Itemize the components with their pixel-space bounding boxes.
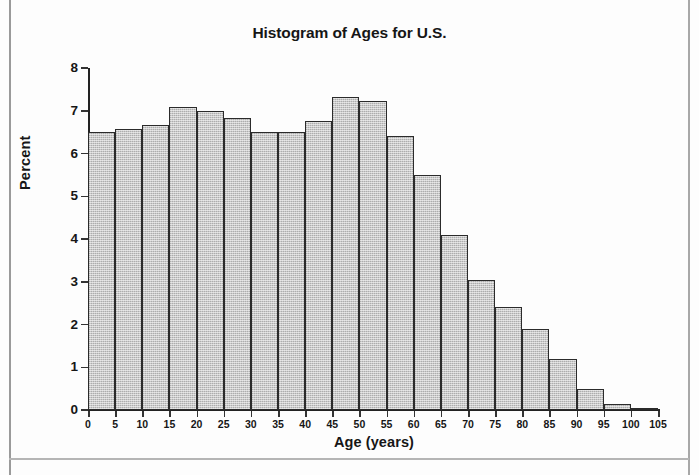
x-tick-label: 105 bbox=[649, 419, 667, 430]
x-tick-label: 90 bbox=[571, 419, 583, 430]
y-tick-mark bbox=[81, 409, 88, 411]
histogram-bar bbox=[332, 97, 359, 410]
chart-title: Histogram of Ages for U.S. bbox=[0, 24, 699, 42]
y-tick-mark bbox=[81, 196, 88, 198]
x-tick-label: 40 bbox=[299, 419, 311, 430]
x-tick-mark bbox=[549, 411, 551, 417]
x-tick-mark bbox=[115, 411, 117, 417]
page-rule-right bbox=[688, 0, 690, 475]
x-tick-mark bbox=[577, 411, 579, 417]
histogram-bar bbox=[115, 129, 142, 410]
x-tick-mark bbox=[305, 411, 307, 417]
x-tick-mark bbox=[604, 411, 606, 417]
x-tick-mark bbox=[441, 411, 443, 417]
x-tick-mark bbox=[359, 411, 361, 417]
x-tick-label: 45 bbox=[326, 419, 338, 430]
x-tick-label: 20 bbox=[191, 419, 203, 430]
y-tick-mark bbox=[81, 281, 88, 283]
y-tick-label: 5 bbox=[70, 190, 78, 204]
histogram-bar bbox=[251, 132, 278, 410]
y-tick-label: 0 bbox=[70, 403, 78, 417]
x-tick-mark bbox=[522, 411, 524, 417]
histogram-bar bbox=[142, 125, 169, 410]
x-tick-label: 85 bbox=[544, 419, 556, 430]
y-tick-mark bbox=[81, 110, 88, 112]
x-tick-mark bbox=[142, 411, 144, 417]
x-tick-mark bbox=[88, 411, 90, 417]
y-tick-label: 1 bbox=[70, 361, 78, 375]
x-tick-label: 100 bbox=[622, 419, 640, 430]
x-tick-mark bbox=[658, 411, 660, 417]
x-tick-label: 0 bbox=[85, 419, 91, 430]
y-tick-label: 7 bbox=[70, 104, 78, 118]
x-tick-label: 15 bbox=[164, 419, 176, 430]
y-tick-mark bbox=[81, 238, 88, 240]
x-tick-label: 35 bbox=[272, 419, 284, 430]
histogram-bar bbox=[549, 359, 576, 410]
histogram-bar bbox=[88, 132, 115, 410]
histogram-bar bbox=[197, 111, 224, 410]
x-tick-mark bbox=[414, 411, 416, 417]
histogram-bar bbox=[387, 136, 414, 410]
x-tick-mark bbox=[251, 411, 253, 417]
x-tick-mark bbox=[169, 411, 171, 417]
x-tick-label: 70 bbox=[462, 419, 474, 430]
page-rule-bottom bbox=[9, 458, 689, 460]
x-tick-label: 10 bbox=[136, 419, 148, 430]
scanned-page: Histogram of Ages for U.S. Percent Age (… bbox=[0, 0, 699, 475]
histogram-bar bbox=[522, 329, 549, 410]
y-tick-label: 8 bbox=[70, 61, 78, 75]
x-tick-label: 30 bbox=[245, 419, 257, 430]
x-tick-label: 50 bbox=[354, 419, 366, 430]
histogram-bar bbox=[169, 107, 196, 410]
histogram-bar bbox=[278, 132, 305, 410]
histogram-bar bbox=[305, 121, 332, 410]
y-tick-label: 4 bbox=[70, 232, 78, 246]
histogram-bar bbox=[359, 101, 386, 410]
x-tick-label: 80 bbox=[516, 419, 528, 430]
y-tick-mark bbox=[81, 367, 88, 369]
x-tick-label: 55 bbox=[381, 419, 393, 430]
x-tick-mark bbox=[224, 411, 226, 417]
x-tick-label: 95 bbox=[598, 419, 610, 430]
y-tick-label: 6 bbox=[70, 147, 78, 161]
y-tick-mark bbox=[81, 153, 88, 155]
x-tick-label: 25 bbox=[218, 419, 230, 430]
x-tick-label: 65 bbox=[435, 419, 447, 430]
x-tick-mark bbox=[387, 411, 389, 417]
page-rule-left bbox=[9, 0, 11, 475]
x-tick-mark bbox=[197, 411, 199, 417]
x-tick-mark bbox=[631, 411, 633, 417]
x-tick-label: 5 bbox=[112, 419, 118, 430]
x-tick-mark bbox=[495, 411, 497, 417]
x-tick-mark bbox=[278, 411, 280, 417]
y-tick-mark bbox=[81, 324, 88, 326]
histogram-bar bbox=[604, 404, 631, 410]
x-tick-mark bbox=[468, 411, 470, 417]
histogram-bar bbox=[414, 175, 441, 410]
histogram-bar bbox=[577, 389, 604, 410]
histogram-bar bbox=[441, 235, 468, 410]
y-tick-mark bbox=[81, 67, 88, 69]
plot-area: 012345678 bbox=[88, 68, 658, 410]
y-tick-label: 3 bbox=[70, 275, 78, 289]
y-axis-label: Percent bbox=[17, 135, 33, 190]
x-tick-label: 75 bbox=[489, 419, 501, 430]
x-axis-label: Age (years) bbox=[88, 434, 660, 450]
x-tick-mark bbox=[332, 411, 334, 417]
histogram-bar bbox=[495, 307, 522, 410]
y-tick-label: 2 bbox=[70, 318, 78, 332]
histogram-bar bbox=[468, 280, 495, 410]
histogram-bar bbox=[224, 118, 251, 410]
histogram-bar bbox=[631, 408, 658, 410]
x-tick-label: 60 bbox=[408, 419, 420, 430]
